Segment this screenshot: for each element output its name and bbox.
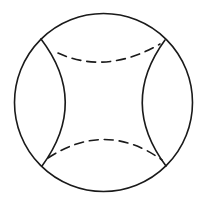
diagram-canvas [0,0,203,201]
background [0,0,203,201]
